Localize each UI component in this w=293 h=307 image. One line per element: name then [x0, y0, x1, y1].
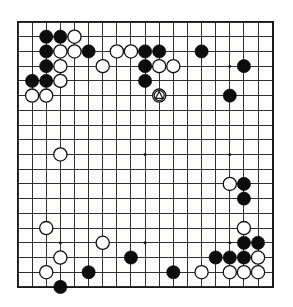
star-point	[228, 241, 231, 244]
black-stone[interactable]	[237, 60, 250, 73]
white-stone[interactable]	[237, 221, 250, 234]
black-stone[interactable]	[54, 280, 67, 293]
star-point	[59, 241, 62, 244]
go-diagram-page	[0, 0, 293, 307]
white-stone[interactable]	[237, 266, 250, 279]
black-stone[interactable]	[138, 45, 151, 58]
black-stone[interactable]	[195, 45, 208, 58]
black-stone[interactable]	[26, 74, 39, 87]
go-board-canvas[interactable]	[0, 0, 293, 307]
black-stone[interactable]	[124, 251, 137, 264]
white-stone[interactable]	[195, 266, 208, 279]
white-stone[interactable]	[223, 177, 236, 190]
white-stone[interactable]	[124, 45, 137, 58]
white-stone[interactable]	[153, 60, 166, 73]
white-stone[interactable]	[167, 60, 180, 73]
white-stone[interactable]	[40, 89, 53, 102]
white-stone[interactable]	[251, 266, 264, 279]
white-stone[interactable]	[54, 148, 67, 161]
white-stone[interactable]	[54, 251, 67, 264]
white-stone[interactable]	[40, 266, 53, 279]
black-stone[interactable]	[138, 74, 151, 87]
star-point	[144, 241, 147, 244]
black-stone[interactable]	[237, 236, 250, 249]
star-point	[228, 65, 231, 68]
black-stone[interactable]	[82, 266, 95, 279]
black-stone[interactable]	[82, 45, 95, 58]
white-stone[interactable]	[223, 266, 236, 279]
go-board[interactable]	[0, 0, 293, 307]
white-stone[interactable]	[251, 251, 264, 264]
black-stone[interactable]	[237, 192, 250, 205]
star-point	[144, 153, 147, 156]
black-stone[interactable]	[40, 74, 53, 87]
white-stone[interactable]	[96, 60, 109, 73]
white-stone[interactable]	[96, 236, 109, 249]
black-stone[interactable]	[167, 266, 180, 279]
black-stone[interactable]	[153, 45, 166, 58]
white-stone[interactable]	[54, 60, 67, 73]
white-stone[interactable]	[26, 89, 39, 102]
white-stone[interactable]	[68, 30, 81, 43]
white-stone[interactable]	[40, 221, 53, 234]
white-stone[interactable]	[54, 45, 67, 58]
black-stone[interactable]	[251, 236, 264, 249]
black-stone[interactable]	[237, 251, 250, 264]
star-point	[228, 153, 231, 156]
black-stone[interactable]	[40, 45, 53, 58]
white-stone[interactable]	[54, 74, 67, 87]
black-stone[interactable]	[209, 251, 222, 264]
black-stone[interactable]	[223, 251, 236, 264]
black-stone[interactable]	[40, 30, 53, 43]
white-stone[interactable]	[68, 45, 81, 58]
white-stone[interactable]	[110, 45, 123, 58]
black-stone[interactable]	[54, 30, 67, 43]
black-stone[interactable]	[138, 60, 151, 73]
black-stone[interactable]	[237, 177, 250, 190]
black-stone[interactable]	[223, 89, 236, 102]
black-stone[interactable]	[40, 60, 53, 73]
